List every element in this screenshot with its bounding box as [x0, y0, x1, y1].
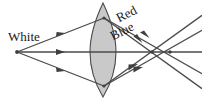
focus-marker-red: [168, 50, 171, 53]
source-point-marker: [15, 50, 19, 54]
lens-top-entry-point: [102, 16, 105, 19]
refracted-ray-red-top-arrow: [140, 31, 150, 39]
focus-marker-blue: [150, 50, 153, 53]
chromatic-aberration-diagram: White Red Blue: [0, 0, 202, 100]
optics-ray-diagram-svg: [0, 0, 202, 100]
label-white: White: [8, 30, 40, 43]
incident-ray-middle-arrow: [56, 49, 65, 55]
refracted-ray-red-bottom-arrow: [134, 67, 144, 73]
lens-bottom-entry-point: [102, 84, 105, 87]
